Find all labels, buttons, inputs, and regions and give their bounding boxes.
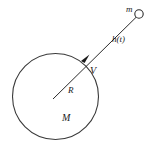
physics-diagram-figure: m h(t) V R M — [0, 0, 153, 151]
label-velocity: V — [90, 65, 98, 76]
label-radius: R — [67, 85, 74, 95]
label-point-mass: m — [126, 4, 133, 14]
label-central-mass: M — [61, 112, 71, 123]
radial-line — [53, 17, 136, 99]
point-mass-circle — [135, 10, 143, 18]
label-altitude: h(t) — [112, 34, 125, 44]
diagram-canvas: m h(t) V R M — [0, 0, 153, 151]
velocity-arrowhead-icon — [81, 55, 90, 64]
